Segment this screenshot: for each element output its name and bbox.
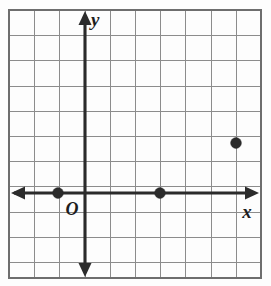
y-axis-label: y — [89, 9, 100, 30]
coordinate-plane-figure: y x O — [0, 0, 271, 286]
x-axis-label: x — [241, 201, 252, 222]
coordinate-plane-canvas: y x O — [0, 0, 271, 286]
data-point — [53, 188, 64, 199]
origin-label: O — [66, 199, 79, 219]
data-point — [231, 138, 242, 149]
data-point — [155, 188, 166, 199]
